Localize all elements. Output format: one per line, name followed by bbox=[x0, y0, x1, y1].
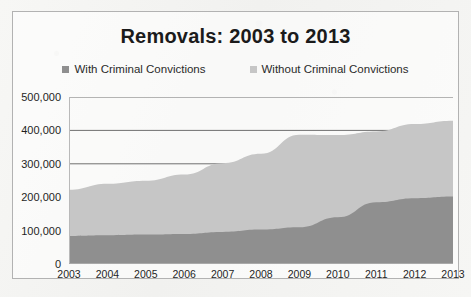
x-axis-tick-label: 2012 bbox=[403, 268, 426, 280]
x-axis-tick-label: 2013 bbox=[441, 268, 464, 280]
y-axis-tick-label: 500,000 bbox=[21, 91, 61, 103]
x-axis-tick-label: 2005 bbox=[134, 268, 157, 280]
legend-swatch-icon bbox=[250, 66, 257, 73]
legend-label: With Criminal Convictions bbox=[74, 63, 205, 75]
x-axis-tick-label: 2011 bbox=[365, 268, 388, 280]
x-axis-line bbox=[69, 263, 453, 264]
y-axis-tick-label: 400,000 bbox=[21, 124, 61, 136]
chart-title: Removals: 2003 to 2013 bbox=[13, 25, 458, 48]
x-axis-tick-label: 2009 bbox=[288, 268, 311, 280]
legend-item-without-criminal-convictions[interactable]: Without Criminal Convictions bbox=[250, 63, 409, 75]
y-axis-line bbox=[69, 97, 70, 264]
x-axis: 2003200420052006200720082009201020112012… bbox=[69, 268, 453, 284]
chart-screenshot: Removals: 2003 to 2013 With Criminal Con… bbox=[0, 0, 471, 297]
chart-frame: Removals: 2003 to 2013 With Criminal Con… bbox=[12, 11, 459, 279]
legend-swatch-icon bbox=[62, 66, 69, 73]
y-axis-tick-label: 300,000 bbox=[21, 158, 61, 170]
plot-area bbox=[69, 97, 453, 264]
chart-legend: With Criminal Convictions Without Crimin… bbox=[13, 63, 458, 75]
legend-item-with-criminal-convictions[interactable]: With Criminal Convictions bbox=[62, 63, 205, 75]
y-axis-tick-label: 200,000 bbox=[21, 191, 61, 203]
legend-label: Without Criminal Convictions bbox=[262, 63, 409, 75]
y-axis: 0100,000200,000300,000400,000500,000 bbox=[13, 97, 65, 264]
x-axis-tick-label: 2006 bbox=[173, 268, 196, 280]
x-axis-tick-label: 2008 bbox=[249, 268, 272, 280]
x-axis-tick-label: 2003 bbox=[57, 268, 80, 280]
x-axis-tick-label: 2007 bbox=[211, 268, 234, 280]
x-axis-tick-label: 2010 bbox=[326, 268, 349, 280]
y-axis-tick-label: 100,000 bbox=[21, 225, 61, 237]
stacked-area-plot bbox=[69, 97, 453, 264]
x-axis-tick-label: 2004 bbox=[96, 268, 119, 280]
